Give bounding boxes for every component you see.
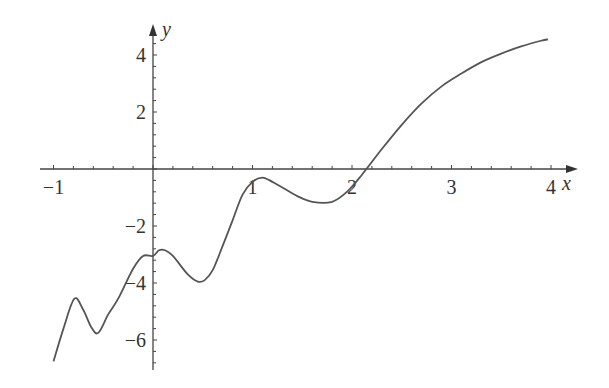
x-tick-label: 4 <box>546 176 556 198</box>
chart-canvas: −11234 42−2−4−6 x y <box>0 0 609 388</box>
y-tick-labels: 42−2−4−6 <box>125 44 146 351</box>
y-tick-label: −4 <box>125 272 146 294</box>
y-axis-label: y <box>160 18 171 41</box>
x-axis-label: x <box>561 172 571 194</box>
x-tick-labels: −11234 <box>43 176 556 198</box>
y-tick-label: −2 <box>125 215 146 237</box>
y-axis <box>149 24 157 370</box>
x-tick-label: −1 <box>43 176 64 198</box>
x-tick-label: 3 <box>447 176 457 198</box>
y-tick-label: −6 <box>125 329 146 351</box>
x-axis <box>40 165 578 173</box>
function-curve <box>54 39 549 361</box>
y-tick-label: 2 <box>136 101 146 123</box>
y-tick-label: 4 <box>136 44 146 66</box>
